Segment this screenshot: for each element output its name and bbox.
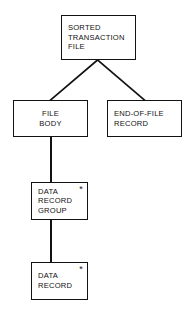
node-label: SORTED TRANSACTION FILE [62,23,135,52]
node-label: DATA RECORD [32,271,87,290]
repeat-asterisk-icon: * [79,265,83,274]
diagram-canvas: SORTED TRANSACTION FILE FILE BODY END-OF… [0,0,189,317]
node-data-record[interactable]: * DATA RECORD [31,262,88,300]
node-end-of-file-record[interactable]: END-OF-FILE RECORD [107,100,182,137]
connector-root-to-end-of-file-record [98,60,145,100]
node-data-record-group[interactable]: * DATA RECORD GROUP [31,182,88,220]
connector-root-to-file-body [51,60,98,100]
node-file-body[interactable]: FILE BODY [13,100,88,137]
repeat-asterisk-icon: * [79,185,83,194]
node-label: FILE BODY [14,109,87,128]
node-label: END-OF-FILE RECORD [108,109,181,128]
node-sorted-transaction-file[interactable]: SORTED TRANSACTION FILE [61,15,136,60]
